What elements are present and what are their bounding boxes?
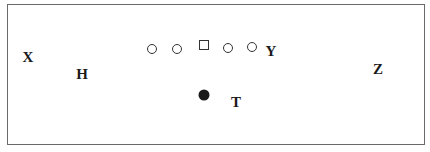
diagram-frame: [7, 4, 425, 145]
left-guard-circle-icon: [172, 44, 182, 54]
center-square-icon: [199, 40, 209, 50]
quarterback-dot-icon: [199, 90, 210, 101]
left-tackle-circle-icon: [147, 44, 157, 54]
label-h: H: [76, 67, 88, 82]
right-tackle-circle-icon: [247, 42, 257, 52]
label-x: X: [23, 50, 34, 65]
label-y: Y: [266, 44, 277, 59]
label-t: T: [231, 95, 241, 110]
label-z: Z: [373, 62, 383, 77]
right-guard-circle-icon: [223, 43, 233, 53]
